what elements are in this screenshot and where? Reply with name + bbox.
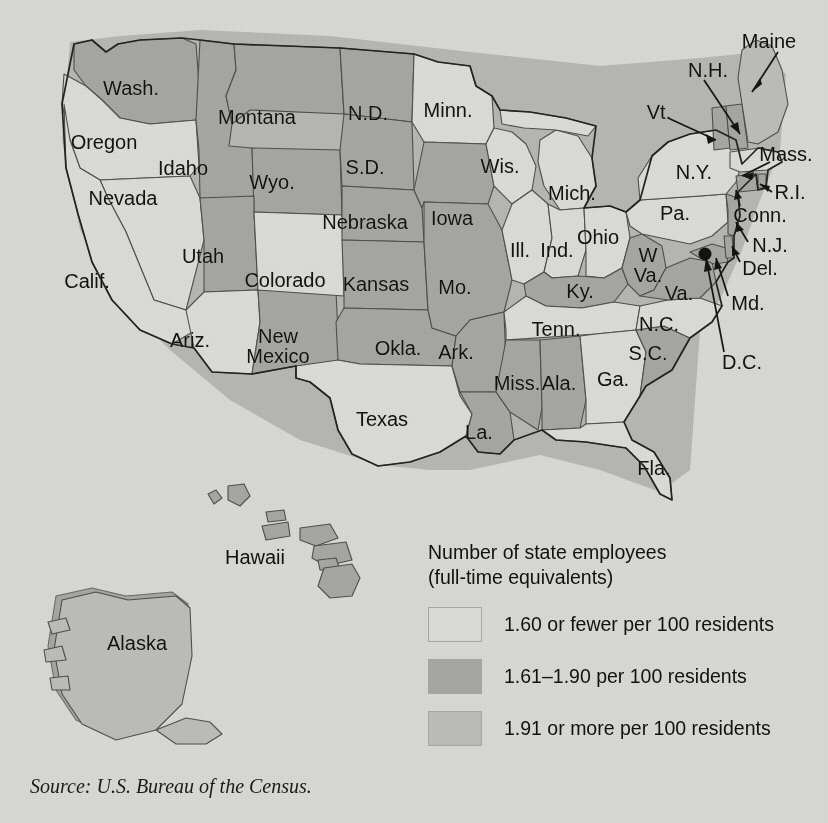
legend-label-low: 1.60 or fewer per 100 residents [504,613,774,636]
legend-swatch-low [428,607,482,642]
state-label-alaska: Alaska [107,633,167,654]
state-label-iowa: Iowa [431,208,473,229]
state-label-nebraska: Nebraska [322,212,408,233]
state-label-ky: Ky. [566,281,593,302]
legend-rows: 1.60 or fewer per 100 residents1.61–1.90… [428,604,774,749]
state-label-utah: Utah [182,246,224,267]
state-label-ala: Ala. [542,373,576,394]
source-note: Source: U.S. Bureau of the Census. [30,775,312,798]
state-SouthDakota [340,114,414,190]
state-label-s-c: S.C. [629,343,668,364]
legend-row-mid: 1.61–1.90 per 100 residents [428,656,774,697]
state-label-minn: Minn. [424,100,473,121]
legend-swatch-high [428,711,482,746]
state-label-la: La. [465,422,493,443]
state-label-ill: Ill. [510,240,530,261]
state-label-colorado: Colorado [244,270,325,291]
state-label-hawaii: Hawaii [225,547,285,568]
callout-label-d-c: D.C. [722,352,762,373]
hawaii-maui-a [262,522,290,540]
hawaii-kauai [208,490,222,504]
state-label-ohio: Ohio [577,227,619,248]
legend-swatch-mid [428,659,482,694]
state-label-s-d: S.D. [346,157,385,178]
state-label-miss: Miss. [494,373,541,394]
callout-label-conn: Conn. [733,205,786,226]
state-label-montana: Montana [218,107,296,128]
state-label-ga: Ga. [597,369,629,390]
state-label-pa: Pa. [660,203,690,224]
callout-label-md: Md. [731,293,764,314]
state-label-ind: Ind. [540,240,573,261]
legend-row-low: 1.60 or fewer per 100 residents [428,604,774,645]
inset-alaska [44,588,222,744]
hawaii-bigisland [318,564,360,598]
state-label-mo: Mo. [438,277,471,298]
legend-label-mid: 1.61–1.90 per 100 residents [504,665,747,688]
state-label-oregon: Oregon [71,132,138,153]
legend-label-high: 1.91 or more per 100 residents [504,717,771,740]
label-line1: New [258,325,298,347]
legend-title-line1: Number of state employees [428,541,666,563]
state-label-new-mexico: NewMexico [246,326,309,366]
label-line1: W [639,244,658,266]
state-label-wash: Wash. [103,78,159,99]
state-label-n-y: N.Y. [676,162,712,183]
map-figure: .st{stroke:#4f4f4c;stroke-width:1.1;stro… [0,0,828,823]
state-label-ariz: Ariz. [170,330,210,351]
state-label-mich: Mich. [548,183,596,204]
callout-label-del: Del. [742,258,778,279]
map-legend: Number of state employees(full-time equi… [428,540,774,760]
state-label-fla: Fla. [637,458,670,479]
label-line2: Va. [665,282,694,304]
label-line2: Mexico [246,345,309,367]
state-label-kansas: Kansas [343,274,410,295]
state-label-okla: Okla. [375,338,422,359]
inset-hawaii [208,484,360,598]
state-label-wyo: Wyo. [249,172,294,193]
state-label-n-c: N.C. [639,314,679,335]
state-label-tenn: Tenn. [532,319,581,340]
hawaii-oahu [228,484,250,506]
alaska-panhandle [156,718,222,744]
callout-label-n-h: N.H. [688,60,728,81]
state-label-ark: Ark. [438,342,474,363]
state-label-idaho: Idaho [158,158,208,179]
callout-label-r-i: R.I. [774,182,805,203]
legend-title: Number of state employees(full-time equi… [428,540,774,591]
legend-title-line2: (full-time equivalents) [428,566,613,588]
state-label-va: Va. [665,263,694,303]
hawaii-lanai [300,524,338,546]
legend-row-high: 1.91 or more per 100 residents [428,708,774,749]
label-line2: Va. [634,264,663,286]
callout-label-n-j: N.J. [752,235,788,256]
state-label-nevada: Nevada [89,188,158,209]
state-label-texas: Texas [356,409,408,430]
district-of-columbia-marker [699,248,712,261]
callout-label-vt: Vt. [647,102,671,123]
state-label-wis: Wis. [481,156,520,177]
state-label-n-d: N.D. [348,103,388,124]
callout-label-maine: Maine [742,31,796,52]
callout-label-mass: Mass. [759,144,812,165]
state-label-w-va: WVa. [634,245,663,285]
state-label-calif: Calif. [64,271,110,292]
hawaii-molokai [266,510,286,522]
